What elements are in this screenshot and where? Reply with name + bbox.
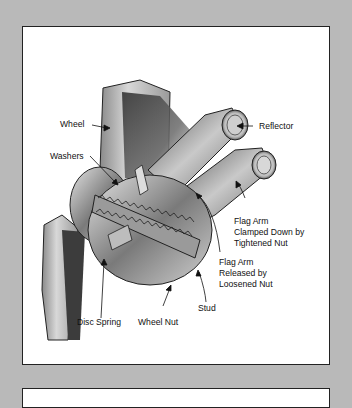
label-flag-arm-released: Flag Arm Released by Loosened Nut: [219, 257, 273, 290]
next-panel-edge: [22, 388, 330, 408]
label-disc-spring: Disc Spring: [77, 317, 121, 328]
label-washers: Washers: [50, 151, 84, 162]
label-wheel: Wheel: [60, 119, 84, 130]
label-wheel-nut: Wheel Nut: [138, 317, 178, 328]
label-reflector: Reflector: [259, 121, 293, 132]
label-stud: Stud: [198, 303, 216, 314]
label-flag-arm-clamped: Flag Arm Clamped Down by Tightened Nut: [234, 216, 304, 249]
